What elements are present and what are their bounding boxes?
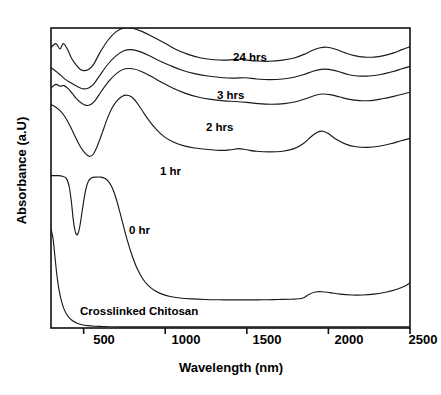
curve-label-24hrs: 24 hrs	[233, 51, 267, 63]
x-axis-title: Wavelength (nm)	[179, 360, 283, 375]
curve-label-1hr: 1 hr	[160, 165, 181, 177]
y-axis-title: Absorbance (a.U)	[15, 116, 30, 224]
curve-label-0hr: 0 hr	[129, 224, 150, 236]
x-tick-label-1000: 1000	[172, 332, 201, 347]
x-tick-label-2500: 2500	[409, 332, 438, 347]
series-24-hrs	[51, 28, 410, 71]
y-axis-title-container: Absorbance (a.U)	[8, 0, 36, 340]
curve-label-crosslinked-chitosan: Crosslinked Chitosan	[80, 305, 198, 317]
figure-container: Absorbance (a.U) 500 1000 1500 2000 2500…	[0, 0, 441, 395]
series-0-hr	[51, 176, 410, 300]
plot-canvas	[0, 0, 441, 395]
x-tick-label-500: 500	[93, 332, 115, 347]
x-tick-label-1500: 1500	[253, 332, 282, 347]
curve-label-3hrs: 3 hrs	[217, 89, 245, 101]
curve-group	[51, 28, 410, 327]
x-axis-title-container: Wavelength (nm)	[51, 358, 411, 376]
curve-label-2hrs: 2 hrs	[206, 121, 234, 133]
x-tick-label-2000: 2000	[335, 332, 364, 347]
